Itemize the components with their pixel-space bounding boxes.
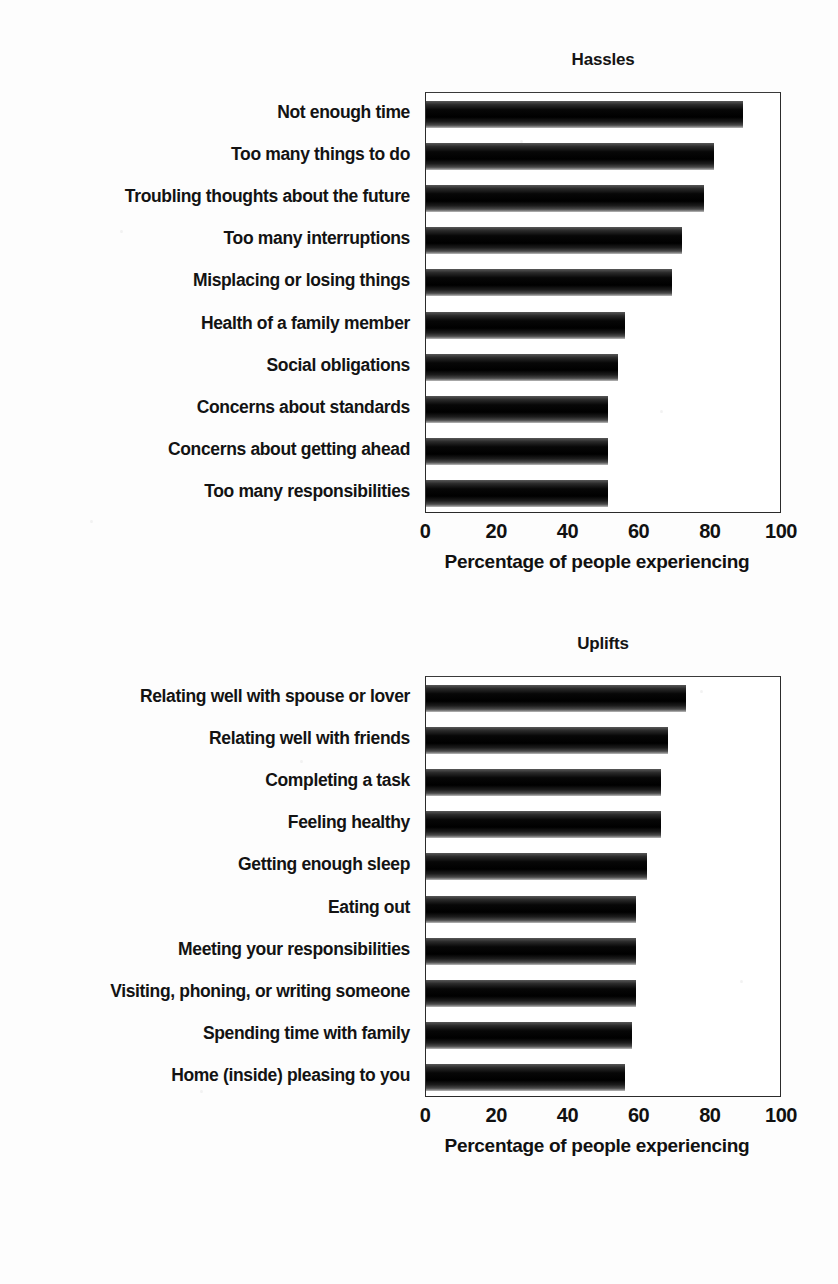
bar (426, 980, 636, 1006)
scan-artifact (740, 980, 743, 983)
category-label: Feeling healthy (0, 814, 410, 832)
bar (426, 354, 618, 380)
category-label: Relating well with spouse or lover (0, 688, 410, 706)
x-tick-label: 40 (557, 1105, 578, 1125)
bar (426, 938, 636, 964)
bar (426, 269, 672, 295)
x-tick-label: 100 (765, 1105, 797, 1125)
bar (426, 853, 647, 879)
category-label: Concerns about getting ahead (0, 441, 410, 459)
bar (426, 312, 625, 338)
bar (426, 727, 668, 753)
x-tick-label: 60 (628, 521, 649, 541)
x-tick-label: 100 (765, 521, 797, 541)
x-tick-label: 20 (486, 521, 507, 541)
chart-title-hassles: Hassles (425, 50, 781, 70)
category-label: Too many responsibilities (0, 483, 410, 501)
category-label: Home (inside) pleasing to you (0, 1067, 410, 1085)
x-axis-hassles: 020406080100 (425, 521, 781, 547)
bar (426, 896, 636, 922)
figure-page: Hassles Not enough timeToo many things t… (0, 0, 838, 1284)
bar (426, 480, 608, 506)
scan-artifact (120, 230, 123, 233)
category-label: Relating well with friends (0, 730, 410, 748)
scan-artifact (300, 760, 303, 763)
x-axis-uplifts: 020406080100 (425, 1105, 781, 1131)
x-tick-label: 80 (699, 521, 720, 541)
bar (426, 1064, 625, 1090)
category-label: Health of a family member (0, 315, 410, 333)
category-label: Completing a task (0, 772, 410, 790)
bar (426, 1022, 632, 1048)
plot-area-uplifts (425, 676, 781, 1097)
x-axis-title-hassles: Percentage of people experiencing (419, 551, 775, 573)
category-label: Too many interruptions (0, 230, 410, 248)
x-tick-label: 0 (420, 1105, 431, 1125)
category-label: Getting enough sleep (0, 856, 410, 874)
x-tick-label: 20 (486, 1105, 507, 1125)
bar (426, 769, 661, 795)
caption-fragment (26, 1268, 816, 1284)
scan-artifact (520, 140, 523, 143)
chart-title-uplifts: Uplifts (425, 634, 781, 654)
x-axis-title-uplifts: Percentage of people experiencing (419, 1135, 775, 1157)
bar (426, 685, 686, 711)
category-label: Not enough time (0, 104, 410, 122)
bar (426, 143, 714, 169)
category-label: Visiting, phoning, or writing someone (0, 983, 410, 1001)
category-label: Misplacing or losing things (0, 272, 410, 290)
bar (426, 438, 608, 464)
category-label: Troubling thoughts about the future (0, 188, 410, 206)
scan-artifact (90, 520, 93, 523)
scan-artifact (660, 410, 663, 413)
category-label: Spending time with family (0, 1025, 410, 1043)
x-tick-label: 80 (699, 1105, 720, 1125)
category-label: Meeting your responsibilities (0, 941, 410, 959)
category-label: Concerns about standards (0, 399, 410, 417)
x-tick-label: 60 (628, 1105, 649, 1125)
bar (426, 185, 704, 211)
bar (426, 811, 661, 837)
scan-artifact (200, 1090, 203, 1093)
bar (426, 227, 682, 253)
category-label: Too many things to do (0, 146, 410, 164)
scan-artifact (700, 690, 703, 693)
x-tick-label: 40 (557, 521, 578, 541)
category-label: Social obligations (0, 357, 410, 375)
plot-area-hassles (425, 92, 781, 513)
bar (426, 396, 608, 422)
x-tick-label: 0 (420, 521, 431, 541)
category-label: Eating out (0, 899, 410, 917)
bar (426, 101, 743, 127)
